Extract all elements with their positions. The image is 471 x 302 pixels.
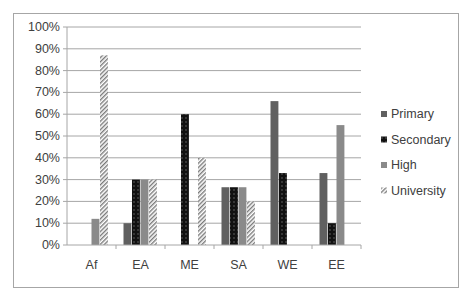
y-tick-label: 50% <box>35 129 60 143</box>
bar-chart: 0%10%20%30%40%50%60%70%80%90%100% AfEAME… <box>0 0 471 302</box>
bar-secondary-ea <box>132 180 140 245</box>
y-tick-label: 90% <box>35 42 60 56</box>
bar-primary-we <box>271 101 279 245</box>
x-category-label: Af <box>86 258 98 272</box>
legend-swatch-primary <box>381 111 387 117</box>
bar-secondary-me <box>181 114 189 245</box>
legend-swatch-university <box>381 188 387 194</box>
bar-primary-sa <box>222 187 230 245</box>
x-axis: AfEAMESAWEEE <box>67 245 361 272</box>
bar-secondary-sa <box>230 187 238 245</box>
bar-primary-ea <box>124 223 132 245</box>
y-tick-label: 10% <box>35 216 60 230</box>
legend-label-secondary: Secondary <box>391 133 452 147</box>
legend-label-university: University <box>391 184 447 198</box>
x-category-label: EA <box>132 258 149 272</box>
legend-label-primary: Primary <box>391 107 435 121</box>
bar-high-sa <box>239 187 247 245</box>
y-tick-label: 30% <box>35 173 60 187</box>
y-tick-label: 100% <box>28 20 60 34</box>
y-tick-label: 0% <box>42 238 60 252</box>
legend: PrimarySecondaryHighUniversity <box>381 107 452 198</box>
bar-university-ea <box>149 180 157 245</box>
bar-secondary-we <box>279 173 287 245</box>
y-tick-label: 40% <box>35 151 60 165</box>
x-category-label: ME <box>180 258 199 272</box>
bar-high-ee <box>337 125 345 245</box>
legend-swatch-high <box>381 162 387 168</box>
bar-high-ea <box>141 180 149 245</box>
x-category-label: WE <box>277 258 297 272</box>
x-category-label: EE <box>328 258 345 272</box>
bars <box>92 55 345 245</box>
bar-university-sa <box>247 201 255 245</box>
bar-university-af <box>100 55 108 245</box>
y-tick-label: 70% <box>35 85 60 99</box>
bar-university-me <box>198 158 206 245</box>
bar-high-af <box>92 219 100 245</box>
bar-primary-ee <box>320 173 328 245</box>
y-tick-label: 80% <box>35 64 60 78</box>
y-tick-label: 60% <box>35 107 60 121</box>
legend-label-high: High <box>391 158 417 172</box>
legend-swatch-secondary <box>381 137 387 143</box>
y-axis-ticks: 0%10%20%30%40%50%60%70%80%90%100% <box>28 20 60 252</box>
bar-secondary-ee <box>328 223 336 245</box>
y-tick-label: 20% <box>35 194 60 208</box>
x-category-label: SA <box>230 258 247 272</box>
